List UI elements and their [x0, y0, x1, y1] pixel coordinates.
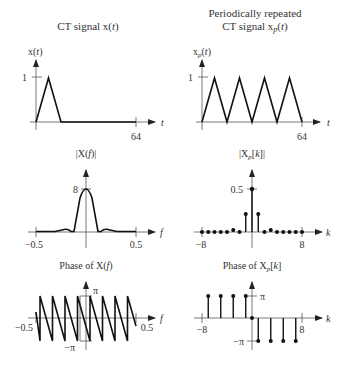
panel-ct-signal: CT signal x(t) x(t) 1 64 t: [22, 20, 164, 142]
y-axis-label: xp(t): [193, 46, 211, 59]
panel-phase-dt: Phase of Xp[k] π −π −8 8 k: [194, 260, 331, 350]
y-tick-label: 0.5: [231, 184, 244, 195]
signal-curve: [202, 78, 302, 122]
panel-magnitude-ct: |X(f)| 8 −0.5 0.5 f: [25, 148, 164, 250]
panel-title: Phase of Xp[k]: [223, 260, 282, 273]
x-tick-label-right: 0.5: [141, 322, 154, 333]
x-tick-label-right: 8: [300, 324, 305, 335]
panel-title-line2: CT signal xp(t): [222, 20, 288, 34]
panel-title: Phase of X(f): [59, 260, 112, 272]
y-tick-label: 1: [22, 72, 27, 83]
y-tick-label-neg-pi: −π: [64, 342, 75, 353]
figure-canvas: CT signal x(t) x(t) 1 64 t Periodically …: [0, 0, 350, 365]
y-tick-label: 8: [73, 184, 78, 195]
x-axis-label: f: [160, 227, 164, 238]
x-tick-label-left: −8: [197, 324, 208, 335]
x-tick-label: 64: [131, 131, 141, 142]
panel-title: |Xp[k]|: [239, 148, 265, 161]
y-tick-label: 1: [188, 72, 193, 83]
stem-markers: [200, 187, 304, 234]
x-axis-label: t: [161, 117, 164, 128]
x-axis-label: f: [160, 313, 164, 324]
x-tick-label-right: 0.5: [130, 239, 143, 250]
y-tick-label-pi: π: [93, 285, 98, 296]
x-axis-label: k: [326, 313, 331, 324]
x-tick-label-left: −0.5: [15, 322, 33, 333]
y-tick-label-neg-pi: −π: [233, 336, 244, 347]
y-axis-label: x(t): [28, 46, 42, 58]
y-tick-label-pi: π: [260, 291, 265, 302]
panel-phase-ct: Phase of X(f) π −π −0.5 0.5 f: [15, 260, 164, 353]
panel-title-line1: Periodically repeated: [208, 7, 302, 19]
x-axis-label: k: [326, 227, 331, 238]
x-tick-label-left: −0.5: [25, 239, 43, 250]
panel-periodic-signal: Periodically repeated CT signal xp(t) xp…: [188, 7, 330, 142]
signal-curve: [36, 78, 136, 122]
x-tick-label: 64: [297, 131, 307, 142]
panel-magnitude-dt: |Xp[k]| 0.5 −8 8 k: [194, 148, 331, 250]
panel-title: CT signal x(t): [57, 20, 119, 33]
x-tick-label-left: −8: [196, 239, 207, 250]
x-axis-label: t: [327, 117, 330, 128]
x-tick-label-right: 8: [300, 239, 305, 250]
panel-title: |X(f)|: [76, 148, 97, 160]
